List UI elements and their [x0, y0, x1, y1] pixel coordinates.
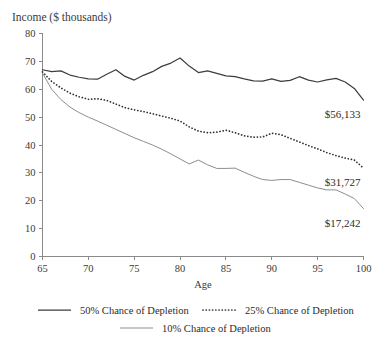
series-layer	[43, 58, 364, 209]
x-axis-title: Age	[194, 279, 212, 290]
x-tick-label: 85	[221, 263, 232, 274]
x-tick-label: 95	[312, 263, 323, 274]
x-tick-label: 80	[175, 263, 186, 274]
series-end-label-2: $31,727	[325, 176, 361, 188]
series-end-label-3: $17,242	[325, 217, 361, 229]
x-tick-label: 90	[267, 263, 278, 274]
x-tick-label: 75	[129, 263, 140, 274]
axis-frame	[43, 34, 364, 257]
y-tick-label: 50	[25, 112, 36, 123]
legend-label-3: 10% Chance of Depletion	[162, 323, 272, 334]
x-axis-ticks: 65707580859095100	[37, 257, 371, 274]
series-line-3	[43, 73, 364, 208]
legend-label-1: 50% Chance of Depletion	[80, 305, 190, 316]
series-end-label-1: $56,133	[325, 108, 361, 120]
end-value-labels: $56,133$31,727$17,242	[325, 108, 361, 228]
series-line-1	[43, 58, 364, 100]
y-tick-label: 40	[25, 140, 36, 151]
y-tick-label: 80	[25, 28, 36, 39]
y-axis-ticks: 01020304050607080	[25, 28, 43, 262]
y-tick-label: 0	[30, 251, 35, 262]
line-chart: 01020304050607080 65707580859095100 $56,…	[0, 0, 391, 349]
y-tick-label: 70	[25, 56, 36, 67]
y-tick-label: 20	[25, 195, 36, 206]
x-tick-label: 70	[83, 263, 94, 274]
legend-label-2: 25% Chance of Depletion	[245, 305, 355, 316]
y-tick-label: 30	[25, 167, 36, 178]
x-tick-label: 65	[37, 263, 48, 274]
chart-legend: 50% Chance of Depletion25% Chance of Dep…	[38, 305, 355, 334]
y-tick-label: 60	[25, 84, 36, 95]
x-tick-label: 100	[356, 263, 372, 274]
chart-figure: Income ($ thousands) 01020304050607080 6…	[0, 0, 391, 349]
series-line-2	[43, 72, 364, 168]
y-tick-label: 10	[25, 223, 36, 234]
